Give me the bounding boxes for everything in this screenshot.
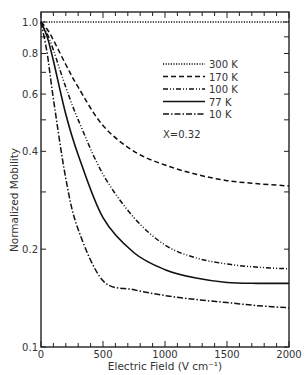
y-tick-label: 1.0 — [22, 17, 38, 28]
y-tick-label: 0.6 — [22, 89, 38, 100]
legend-label: 100 K — [209, 84, 238, 95]
y-axis-label: Normalized Mobility — [8, 148, 20, 252]
x-tick-label: 1000 — [152, 349, 177, 360]
x-tick-label: 1500 — [214, 349, 239, 360]
series-line-100k — [41, 22, 289, 269]
series-line-77k — [41, 22, 289, 283]
legend: 300 K170 K100 K77 K10 K — [163, 59, 238, 120]
y-tick-label: 0.8 — [22, 48, 38, 59]
legend-label: 10 K — [209, 109, 232, 120]
y-tick-label: 0.1 — [22, 342, 38, 353]
series-layer — [41, 22, 289, 308]
x-axis-label: Electric Field (V cm⁻¹) — [108, 360, 222, 372]
series-line-170k — [41, 22, 289, 186]
x-tick-label: 500 — [93, 349, 112, 360]
y-tick-label: 0.2 — [22, 244, 38, 255]
y-axis-ticks: 0.10.20.40.60.81.0 — [22, 17, 289, 353]
legend-label: 77 K — [209, 97, 232, 108]
x-tick-label: 0 — [38, 349, 44, 360]
legend-label: 300 K — [209, 59, 238, 70]
y-tick-label: 0.4 — [22, 146, 38, 157]
mobility-chart: 0500100015002000 0.10.20.40.60.81.0 300 … — [0, 0, 305, 375]
plot-frame — [41, 12, 289, 347]
annotation-composition: X=0.32 — [163, 129, 201, 140]
x-axis-ticks: 0500100015002000 — [38, 12, 302, 360]
x-tick-label: 2000 — [276, 349, 301, 360]
legend-label: 170 K — [209, 72, 238, 83]
